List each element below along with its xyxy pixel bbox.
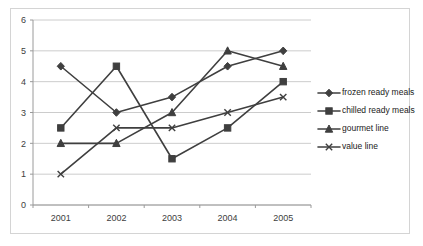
y-tick-label: 1 (21, 169, 26, 179)
data-point-marker (168, 93, 175, 101)
line-chart: 6543210 20012002200320042005 frozen read… (0, 0, 423, 246)
legend-label: value line (342, 141, 378, 151)
x-tick-label: 2001 (51, 213, 71, 223)
data-point-marker (224, 125, 230, 131)
data-point-marker (169, 156, 175, 162)
y-tick-label: 2 (21, 139, 26, 149)
y-tick-label: 6 (21, 15, 26, 25)
y-tick-label: 5 (21, 46, 26, 56)
x-tick-label: 2003 (162, 213, 182, 223)
legend-label: frozen ready meals (342, 87, 414, 97)
x-axis-tick-labels: 20012002200320042005 (51, 213, 293, 223)
y-tick-label: 4 (21, 77, 26, 87)
legend-marker-icon (325, 89, 332, 97)
x-tick-label: 2005 (273, 213, 293, 223)
chart-legend: frozen ready mealschilled ready mealsgou… (318, 87, 415, 151)
data-point-marker (113, 63, 119, 69)
data-point-marker (58, 125, 64, 131)
x-tick-label: 2002 (106, 213, 126, 223)
legend-label: chilled ready meals (342, 105, 415, 115)
plot-area: 6543210 20012002200320042005 frozen read… (0, 0, 423, 246)
legend-item-frozen-ready-meals[interactable]: frozen ready meals (318, 87, 414, 97)
y-tick-label: 3 (21, 108, 26, 118)
legend-marker-icon (326, 108, 332, 114)
data-point-marker (280, 78, 286, 84)
data-point-marker (224, 62, 231, 70)
legend-item-chilled-ready-meals[interactable]: chilled ready meals (318, 105, 415, 115)
y-tick-label: 0 (21, 200, 26, 210)
y-axis-tick-labels: 6543210 (21, 15, 26, 210)
legend-item-gourmet-line[interactable]: gourmet line (318, 123, 389, 133)
series-value-line (58, 94, 287, 177)
data-point-marker (280, 47, 287, 55)
legend-item-value-line[interactable]: value line (318, 141, 378, 151)
x-tick-label: 2004 (218, 213, 238, 223)
legend-label: gourmet line (342, 123, 389, 133)
